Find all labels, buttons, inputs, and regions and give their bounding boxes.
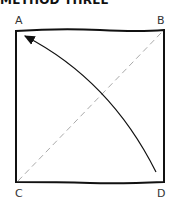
corner-label-b: B — [157, 14, 165, 27]
dashed-diagonal — [18, 32, 162, 181]
corner-label-d: D — [157, 187, 165, 200]
diagram-canvas — [0, 0, 173, 205]
curved-arrow — [25, 36, 156, 172]
corner-label-c: C — [15, 187, 23, 200]
corner-label-a: A — [15, 14, 23, 27]
